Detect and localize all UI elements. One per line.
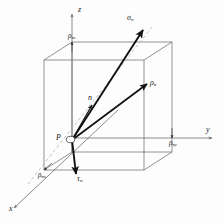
tau-n-label: τn	[77, 175, 82, 183]
projection-arrows	[44, 42, 172, 170]
cube-front-face	[44, 60, 144, 170]
p-nx-arrow	[44, 163, 52, 170]
diagram-canvas	[0, 0, 224, 224]
z-axis-label: z	[78, 6, 81, 14]
sigma-n-vector	[72, 30, 143, 140]
point-P-marker	[66, 136, 74, 142]
tau-n-vector	[72, 140, 76, 174]
cube-wireframe	[44, 42, 172, 170]
stress-decomposition-figure: z y x ρnz ρny ρnx σn ρn n τn P	[0, 0, 224, 224]
p-n-label: ρn	[150, 79, 156, 87]
x-axis-label: x	[9, 205, 13, 213]
p-n-vector	[72, 84, 147, 140]
y-axis-label: y	[206, 126, 210, 134]
p-nx-label: ρnx	[38, 172, 46, 179]
cube-back-face	[72, 42, 172, 152]
vector-group	[72, 30, 147, 174]
point-P-label: P	[56, 134, 61, 142]
x-axis	[14, 110, 118, 208]
p-ny-label: ρny	[169, 140, 177, 147]
p-nz-label: ρnz	[68, 33, 75, 40]
n-vector-label: n	[88, 94, 92, 102]
dashed-diagonal	[28, 27, 152, 184]
construction-dashed-lines	[28, 27, 152, 184]
sigma-n-label: σn	[127, 14, 133, 22]
n-vector	[72, 105, 92, 140]
cube-connecting-edges	[44, 42, 172, 170]
